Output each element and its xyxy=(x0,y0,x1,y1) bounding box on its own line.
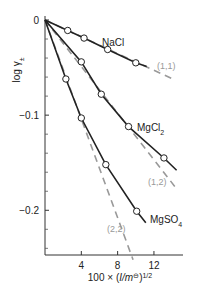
activity-coefficient-chart: 0−0.1−0.2 4812 (1,1)(1,2)(2,2) NaClMgCl2… xyxy=(0,0,197,299)
y-axis-label: log γ± xyxy=(11,57,25,82)
data-point xyxy=(133,60,139,66)
series-label-mgcl2: MgCl2 xyxy=(137,122,164,136)
data-point xyxy=(161,155,167,161)
limiting-line-label: (1,1) xyxy=(157,61,176,71)
data-point xyxy=(81,35,87,41)
data-point xyxy=(133,208,139,214)
axes: 0−0.1−0.2 4812 xyxy=(19,15,183,272)
limiting-line-label: (1,2) xyxy=(148,177,167,187)
series-line-mgso4 xyxy=(45,20,146,223)
x-ticks: 4812 xyxy=(79,251,160,271)
x-tick-label: 4 xyxy=(79,260,85,271)
x-axis-label: 100 × (I/m⊖)1/2 xyxy=(88,272,153,284)
limiting-line-label: (2,2) xyxy=(107,224,126,234)
data-point xyxy=(63,76,69,82)
series-label-mgso4: MgSO4 xyxy=(150,214,182,228)
data-point xyxy=(103,161,109,167)
y-tick-label: −0.2 xyxy=(19,205,39,216)
data-point xyxy=(64,27,70,33)
data-point xyxy=(98,91,104,97)
labels: log γ± 100 × (I/m⊖)1/2 xyxy=(11,57,152,283)
x-tick-label: 8 xyxy=(115,260,121,271)
y-tick-label: 0 xyxy=(33,15,39,26)
data-point xyxy=(78,59,84,65)
series-label-nacl: NaCl xyxy=(102,37,124,48)
x-tick-label: 12 xyxy=(148,260,160,271)
data-point xyxy=(78,115,84,121)
data-point xyxy=(125,123,131,129)
y-tick-label: −0.1 xyxy=(19,110,39,121)
